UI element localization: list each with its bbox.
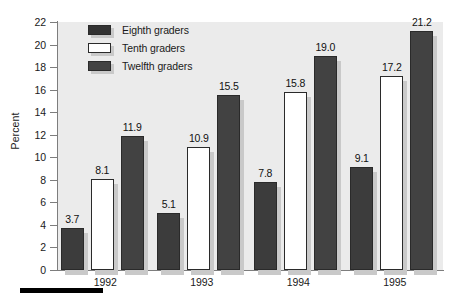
bar-value-label: 8.1 (86, 165, 118, 176)
bar-eighth-graders-1993 (157, 213, 180, 270)
bar-tenth-graders-1995 (380, 76, 403, 270)
y-axis-tick (50, 157, 57, 158)
y-axis-tick-label: 4 (0, 220, 46, 230)
y-axis-tick-label: 6 (0, 197, 46, 207)
bar-twelfth-graders-1995 (410, 31, 433, 270)
bar-value-label: 19.0 (309, 42, 341, 53)
bar-value-label: 15.8 (279, 78, 311, 89)
y-axis-tick (50, 112, 57, 113)
bar-value-label: 17.2 (376, 62, 408, 73)
y-axis-tick-label-text: 14 (2, 107, 46, 117)
y-axis-tick-label-text: 2 (2, 242, 46, 252)
bar-value-label: 3.7 (56, 214, 88, 225)
x-axis-label-1995: 1995 (350, 276, 440, 288)
legend-swatch-twelfth-graders (88, 61, 111, 71)
y-axis-tick-label: 18 (0, 62, 46, 72)
y-axis-tick (50, 135, 57, 136)
y-axis-tick (50, 247, 57, 248)
y-axis-tick (50, 202, 57, 203)
y-axis-tick-label-text: 8 (2, 175, 46, 185)
legend-swatch-eighth-graders (88, 25, 111, 35)
y-axis-tick-label: 12 (0, 130, 46, 140)
footer-rule (20, 288, 103, 293)
x-axis-label-1994: 1994 (253, 276, 343, 288)
y-axis-line (57, 21, 58, 271)
y-axis-tick-label: 22 (0, 17, 46, 27)
bar-value-label: 9.1 (346, 153, 378, 164)
y-axis-tick-label: 20 (0, 40, 46, 50)
y-axis-tick-label: 8 (0, 175, 46, 185)
y-axis-tick (50, 90, 57, 91)
legend-label-tenth-graders: Tenth graders (122, 42, 185, 55)
y-axis-tick-label-text: 12 (2, 130, 46, 140)
bar-tenth-graders-1993 (187, 147, 210, 270)
bar-value-label: 5.1 (153, 199, 185, 210)
legend-item-twelfth-graders: Twelfth graders (88, 60, 238, 76)
bar-twelfth-graders-1994 (314, 56, 337, 270)
y-axis-tick (50, 22, 57, 23)
y-axis-tick-label: 10 (0, 152, 46, 162)
y-axis-tick (50, 270, 57, 271)
y-axis-tick (50, 180, 57, 181)
y-axis-tick-label-text: 0 (2, 265, 46, 275)
bar-value-label: 11.9 (116, 122, 148, 133)
y-axis-tick-label: 2 (0, 242, 46, 252)
y-axis-tick-label: 0 (0, 265, 46, 275)
y-axis-tick-label: 16 (0, 85, 46, 95)
bar-twelfth-graders-1992 (121, 136, 144, 270)
bar-value-label: 10.9 (183, 133, 215, 144)
y-axis-tick (50, 67, 57, 68)
y-axis-tick-label-text: 6 (2, 197, 46, 207)
bar-eighth-graders-1995 (350, 167, 373, 270)
y-axis-tick-label-text: 20 (2, 40, 46, 50)
y-axis-tick-label-text: 18 (2, 62, 46, 72)
legend-label-twelfth-graders: Twelfth graders (122, 60, 192, 73)
y-axis-tick-label-text: 4 (2, 220, 46, 230)
bar-value-label: 21.2 (406, 17, 438, 28)
bar-chart-figure: Percent 2220181614121086420 3.78.111.95.… (0, 0, 463, 302)
bar-value-label: 7.8 (249, 168, 281, 179)
y-axis-tick-label: 14 (0, 107, 46, 117)
bar-eighth-graders-1992 (61, 228, 84, 270)
y-axis-tick-label-text: 10 (2, 152, 46, 162)
y-axis-tick-label-text: 22 (2, 17, 46, 27)
bar-tenth-graders-1994 (284, 92, 307, 270)
legend-swatch-tenth-graders (88, 43, 111, 53)
legend-item-tenth-graders: Tenth graders (88, 42, 238, 58)
x-axis-label-1993: 1993 (157, 276, 247, 288)
y-axis-tick (50, 45, 57, 46)
bar-eighth-graders-1994 (254, 182, 277, 270)
chart-legend: Eighth graders Tenth graders Twelfth gra… (88, 24, 238, 78)
legend-label-eighth-graders: Eighth graders (122, 24, 189, 37)
bar-tenth-graders-1992 (91, 179, 114, 270)
x-axis-label-1992: 1992 (60, 276, 150, 288)
legend-item-eighth-graders: Eighth graders (88, 24, 238, 40)
y-axis-tick-label-text: 16 (2, 85, 46, 95)
bar-twelfth-graders-1993 (217, 95, 240, 270)
bar-value-label: 15.5 (213, 81, 245, 92)
